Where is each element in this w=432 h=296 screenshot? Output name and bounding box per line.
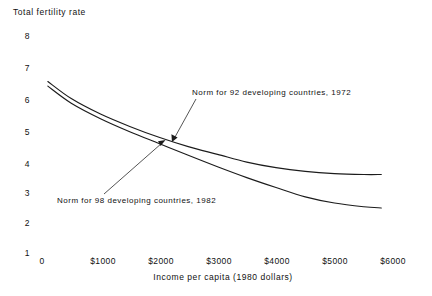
series-curve-1982	[48, 86, 381, 208]
leader-arrowhead-1972	[171, 134, 177, 142]
fertility-rate-chart: Total fertility rate 8 7 6 5 4 3 2 1 0 $…	[0, 0, 432, 296]
leader-line-1972	[175, 99, 196, 137]
plot-layer	[0, 0, 432, 296]
series-curve-1972	[48, 82, 381, 175]
leader-line-1982	[104, 143, 162, 194]
